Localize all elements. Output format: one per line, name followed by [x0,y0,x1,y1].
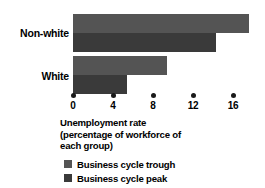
legend-item-trough: Business cycle trough [64,157,175,171]
legend: Business cycle trough Business cycle pea… [64,157,175,185]
bar-white-peak [73,75,127,94]
plot-area [73,14,265,92]
x-axis-title-line-3: each group) [60,140,260,152]
x-axis-tick-label: 8 [133,100,173,111]
x-axis-title-line-1: Unemployment rate [60,117,260,129]
category-label-non-white: Non-white [0,27,69,39]
category-label-white: White [0,70,69,82]
bar-white-trough [73,56,167,75]
x-axis-title-line-2: (percentage of workforce of [60,129,260,141]
x-axis-tick-dot-icon [151,93,156,98]
bar-non-white-trough [73,14,249,33]
bar-non-white-peak [73,33,216,52]
x-axis-tick-dot-icon [231,93,236,98]
x-axis: 0481216 [0,93,265,115]
x-axis-tick-label: 12 [173,100,213,111]
unemployment-rate-bar-chart: Non-white White 0481216 Unemployment rat… [0,0,265,188]
x-axis-tick-dot-icon [71,93,76,98]
legend-label-peak: Business cycle peak [77,173,167,184]
x-axis-title: Unemployment rate (percentage of workfor… [60,117,260,152]
x-axis-tick-dot-icon [111,93,116,98]
x-axis-tick-dot-icon [191,93,196,98]
x-axis-tick-label: 0 [53,100,93,111]
x-axis-tick-label: 4 [93,100,133,111]
bar-group-white [73,56,167,94]
legend-label-trough: Business cycle trough [77,159,175,170]
x-axis-tick-label: 16 [213,100,253,111]
legend-swatch-trough-icon [64,160,72,168]
legend-swatch-peak-icon [64,174,72,182]
bar-group-non-white [73,14,249,52]
legend-item-peak: Business cycle peak [64,171,175,185]
